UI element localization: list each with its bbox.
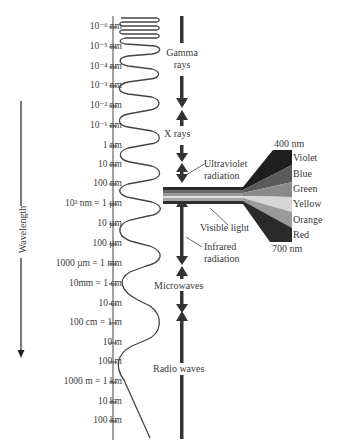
- tick-label: 10⁻² nm: [90, 101, 122, 111]
- color-label-violet: Violet: [293, 153, 317, 163]
- band-label-uv: Ultraviolet radiation: [204, 158, 247, 181]
- axis-title: Wavelength: [17, 200, 28, 260]
- label-400nm: 400 nm: [274, 139, 304, 149]
- tick-label: 10⁻⁵ nm: [90, 42, 122, 52]
- tick-label: 100 cm = 1 m: [69, 318, 122, 328]
- band-label-microwave: Microwaves: [154, 280, 203, 292]
- tick-label: 1000 µm = 1 mm: [56, 259, 122, 269]
- band-label-ir: Infrared radiation: [204, 241, 240, 264]
- band-label-xray: X rays: [164, 128, 190, 140]
- band-label-gamma: Gamma rays: [163, 47, 201, 70]
- tick-label: 10 km: [98, 397, 122, 407]
- tick-label: 1000 m = 1 km: [64, 377, 122, 387]
- tick-label: 100 m: [98, 357, 122, 367]
- tick-label: 10 cm: [99, 299, 122, 309]
- tick-label: 10⁻³ nm: [90, 81, 122, 91]
- band-label-visible: Visible light: [200, 222, 249, 234]
- color-label-yellow: Yellow: [293, 199, 321, 209]
- band-label-radio: Radio waves: [153, 363, 204, 375]
- color-label-green: Green: [293, 184, 317, 194]
- tick-label: 10mm = 1 cm: [69, 279, 122, 289]
- band-arrows: [176, 16, 188, 439]
- tick-label: 10³ nm = 1 µm: [65, 199, 122, 209]
- tick-label: 10 µm: [97, 219, 122, 229]
- tick-label: 10⁻⁴ nm: [90, 62, 122, 72]
- color-label-red: Red: [293, 230, 309, 240]
- tick-label: 100 µm: [93, 239, 123, 249]
- tick-label: 10 nm: [98, 160, 122, 170]
- tick-label: 1 nm: [103, 141, 122, 151]
- tick-label: 10 m: [103, 338, 122, 348]
- wave-curve: [118, 18, 160, 438]
- tick-label: 10⁻⁶ nm: [90, 22, 122, 32]
- label-700nm: 700 nm: [272, 244, 302, 254]
- tick-label: 100 nm: [93, 179, 122, 189]
- tick-label: 10⁻¹ nm: [90, 121, 122, 131]
- color-label-orange: Orange: [293, 215, 322, 225]
- tick-label: 100 km: [93, 416, 122, 426]
- color-label-blue: Blue: [293, 169, 312, 179]
